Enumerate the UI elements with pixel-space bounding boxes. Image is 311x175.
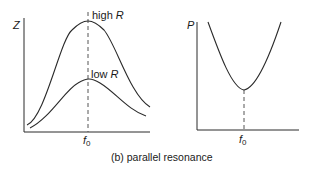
p-curve [208,22,281,90]
low-r-label: low R [91,68,119,80]
right-f0-tick-label: f0 [239,133,247,147]
right-graph: P f0 [187,19,299,147]
high-r-label: high R [92,9,124,21]
figure-caption: (b) parallel resonance [111,151,213,163]
left-graph: Z high R low R f0 [12,9,150,148]
z-axis-label: Z [12,19,21,31]
p-axis-label: P [187,19,195,31]
left-f0-tick-label: f0 [83,134,91,148]
parallel-resonance-diagram: Z high R low R f0 P f0 (b) parallel reso… [0,0,311,175]
